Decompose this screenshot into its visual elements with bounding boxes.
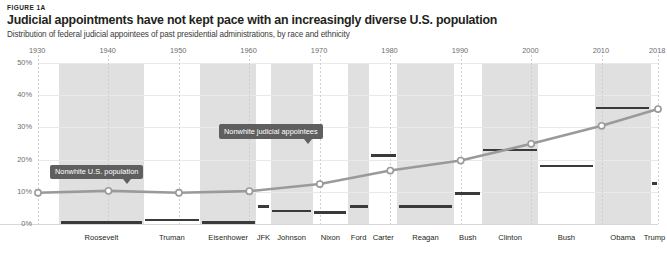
population-data-point [655,106,661,112]
x-axis-tick-label: 2018 [649,46,665,55]
y-gridline [0,224,658,225]
y-axis-tick-label: 30% [2,123,32,131]
y-axis-tick-label: 40% [2,91,32,99]
x-axis-tick-label: 2000 [522,46,538,55]
callout-label: Nonwhite U.S. population [55,167,138,176]
population-data-point [246,188,252,194]
population-data-point [317,181,323,187]
x-axis-tick-label: 1960 [240,46,256,55]
x-axis-tick-label: 2010 [593,46,609,55]
president-label: Trump [627,233,667,242]
y-axis-tick-label: 0% [2,220,32,228]
figure-label: FIGURE 1A [7,4,46,11]
x-axis-tick-label: 1980 [381,46,397,55]
callout-label: Nonwhite judicial appointees [224,127,318,136]
page-title: Judicial appointments have not kept pace… [7,13,497,27]
callout-nonwhite-population: Nonwhite U.S. population [50,165,143,180]
page-subtitle: Distribution of federal judicial appoint… [7,30,350,39]
callout-nonwhite-appointees: Nonwhite judicial appointees [219,124,323,139]
population-data-point [599,123,605,129]
population-data-point [176,190,182,196]
y-axis-tick-label: 10% [2,188,32,196]
population-data-point [387,167,393,173]
population-data-point [35,190,41,196]
callout-pointer [123,179,131,184]
x-axis-tick-label: 1940 [99,46,115,55]
x-axis-tick-label: 1990 [452,46,468,55]
x-axis-tick-label: 1930 [29,46,45,55]
callout-pointer [304,139,312,144]
population-data-point [458,157,464,163]
y-axis-tick-label: 50% [2,59,32,67]
x-gridline [658,55,659,224]
chart-plot-area: 0%10%20%30%40%50%19301940195019601970198… [38,63,658,224]
x-axis-tick-label: 1970 [311,46,327,55]
population-data-point [528,141,534,147]
population-data-point [105,188,111,194]
figure-container: FIGURE 1A Judicial appointments have not… [0,0,667,263]
population-line [38,109,658,193]
y-axis-tick-label: 20% [2,156,32,164]
population-line-series [38,63,658,224]
x-axis-tick-label: 1950 [170,46,186,55]
